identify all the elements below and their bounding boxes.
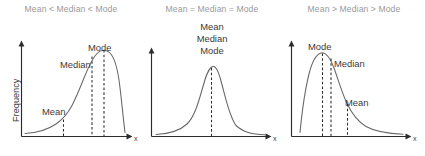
statistics-skewness-figure: Mean < Median < Mode Frequency x Mean Me… (0, 0, 425, 156)
y-axis-arrow-icon (289, 41, 295, 47)
panel-positively-skewed: Mean > Median > Mode x Mode Median Mean (283, 0, 425, 156)
panel-1-plot (0, 0, 142, 156)
distribution-curve (156, 67, 265, 135)
median-label: Median (334, 58, 365, 69)
mode-label: Mode (308, 41, 331, 52)
x-axis-arrow-icon (266, 134, 272, 140)
x-axis-label: x (413, 134, 417, 143)
x-axis-arrow-icon (406, 134, 412, 140)
mean-label: Mean (345, 97, 368, 108)
median-label: Median (60, 59, 91, 70)
y-axis-label: Frequency (11, 79, 21, 122)
x-axis-arrow-icon (127, 134, 133, 140)
mode-label: Mode (88, 42, 111, 53)
panel-3-plot (283, 0, 425, 156)
x-axis-label: x (273, 134, 277, 143)
mean-label: Mean (187, 21, 237, 32)
panel-negatively-skewed: Mean < Median < Mode Frequency x Mean Me… (0, 0, 142, 156)
mode-label: Mode (187, 45, 237, 56)
y-axis-arrow-icon (19, 41, 25, 47)
x-axis-label: x (134, 134, 138, 143)
y-axis-arrow-icon (149, 48, 155, 54)
panel-symmetric: Mean = Median = Mode x Mean Median Mode (141, 0, 283, 156)
median-label: Median (187, 33, 237, 44)
mean-label: Mean (42, 106, 65, 117)
